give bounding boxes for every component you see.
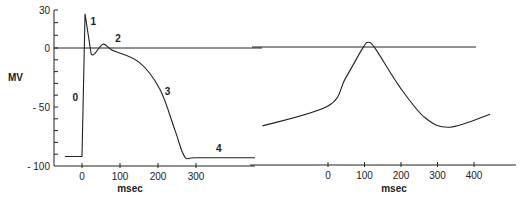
x-tick-label: 100 <box>356 170 373 181</box>
series-line <box>65 14 255 159</box>
phase-label: 3 <box>165 86 171 97</box>
right-chart: 0100200300400msec <box>250 42 516 194</box>
y-tick-label: 0 <box>44 43 50 54</box>
x-tick-label: 0 <box>79 171 85 182</box>
y-axis-title: MV <box>8 72 23 83</box>
x-tick-label: 300 <box>429 170 446 181</box>
y-tick-label: - 100 <box>27 161 50 172</box>
x-tick-label: 300 <box>188 171 205 182</box>
x-tick-label: 0 <box>325 170 331 181</box>
x-tick-label: 200 <box>393 170 410 181</box>
series-line <box>262 42 490 127</box>
phase-label: 0 <box>72 92 78 103</box>
left-chart: 0100200300msec300- 50- 100MV01234 <box>8 5 262 194</box>
x-tick-label: 100 <box>112 171 129 182</box>
x-tick-label: 200 <box>150 171 167 182</box>
x-axis-title: msec <box>117 183 143 194</box>
phase-label: 2 <box>115 33 121 44</box>
x-axis-title: msec <box>381 183 407 194</box>
phase-label: 4 <box>216 143 222 154</box>
action-potential-chart: 0100200300msec300- 50- 100MV01234 010020… <box>0 0 520 203</box>
y-tick-label: - 50 <box>33 102 51 113</box>
phase-label: 1 <box>91 16 97 27</box>
y-tick-label: 30 <box>39 5 51 16</box>
x-tick-label: 400 <box>466 170 483 181</box>
